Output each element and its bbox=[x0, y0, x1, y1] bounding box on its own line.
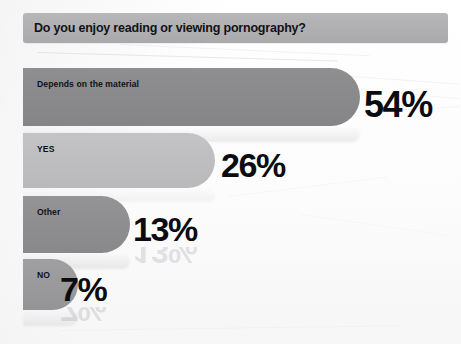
chart-title-banner: Do you enjoy reading or viewing pornogra… bbox=[23, 13, 448, 43]
bar-category-label: Other bbox=[37, 207, 60, 217]
background-streak bbox=[120, 44, 370, 56]
background-streak bbox=[38, 52, 338, 61]
bar-reflection bbox=[23, 310, 78, 326]
background-streak bbox=[60, 325, 400, 331]
poll-result-chart: Do you enjoy reading or viewing pornogra… bbox=[0, 0, 461, 344]
bar-value-reflection: 7% bbox=[60, 307, 106, 327]
bar-value-label-no: 7% bbox=[60, 272, 106, 306]
bar-category-label: Depends on the material bbox=[37, 79, 139, 89]
bar-value-label-depends: 54% bbox=[364, 87, 432, 123]
bar-other: Other bbox=[23, 196, 130, 253]
bar-value-label-other: 13% bbox=[133, 212, 197, 246]
chart-title: Do you enjoy reading or viewing pornogra… bbox=[34, 21, 306, 35]
bar-category-label: YES bbox=[37, 144, 55, 154]
bar-category-label: NO bbox=[37, 270, 50, 280]
bar-value-reflection: 13% bbox=[133, 247, 197, 269]
bar-value-label-yes: 26% bbox=[221, 148, 285, 182]
bar-depends-on-the-material: Depends on the material bbox=[23, 68, 360, 126]
bar-yes: YES bbox=[23, 133, 215, 188]
background-streak bbox=[300, 214, 449, 236]
